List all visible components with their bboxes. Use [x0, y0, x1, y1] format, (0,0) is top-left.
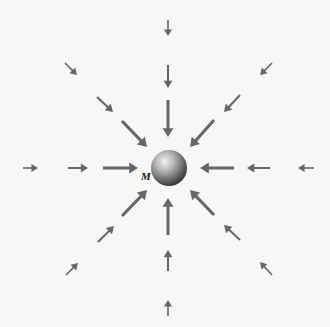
field-arrow-ne-mid	[224, 95, 240, 112]
field-arrow-s-near	[163, 198, 174, 235]
field-arrow-w-mid	[68, 164, 88, 173]
field-arrow-e-mid	[247, 164, 270, 173]
field-arrow-sw-near	[122, 190, 147, 216]
field-arrow-sw-far	[66, 263, 78, 275]
field-arrow-e-far	[298, 164, 314, 172]
field-arrow-sw-mid	[98, 226, 114, 242]
field-arrow-nw-near	[122, 121, 147, 147]
field-arrow-se-near	[190, 190, 214, 215]
field-arrow-n-near	[163, 100, 174, 137]
field-arrow-nw-far	[65, 63, 77, 75]
field-arrow-nw-mid	[97, 97, 113, 112]
field-lines	[0, 0, 330, 327]
mass-sphere	[151, 150, 187, 186]
field-arrow-s-far	[164, 300, 172, 316]
field-arrow-s-mid	[164, 250, 173, 271]
field-arrow-w-near	[103, 163, 138, 174]
field-arrow-se-mid	[224, 225, 240, 240]
field-diagram: M	[0, 0, 330, 327]
field-arrow-ne-far	[260, 63, 272, 75]
field-arrow-e-near	[200, 163, 234, 174]
field-arrow-se-far	[260, 262, 272, 275]
field-arrow-n-mid	[164, 65, 173, 88]
field-arrow-n-far	[164, 20, 172, 36]
field-arrow-ne-near	[190, 120, 214, 147]
field-arrow-w-far	[23, 164, 38, 172]
mass-label: M	[141, 170, 151, 182]
